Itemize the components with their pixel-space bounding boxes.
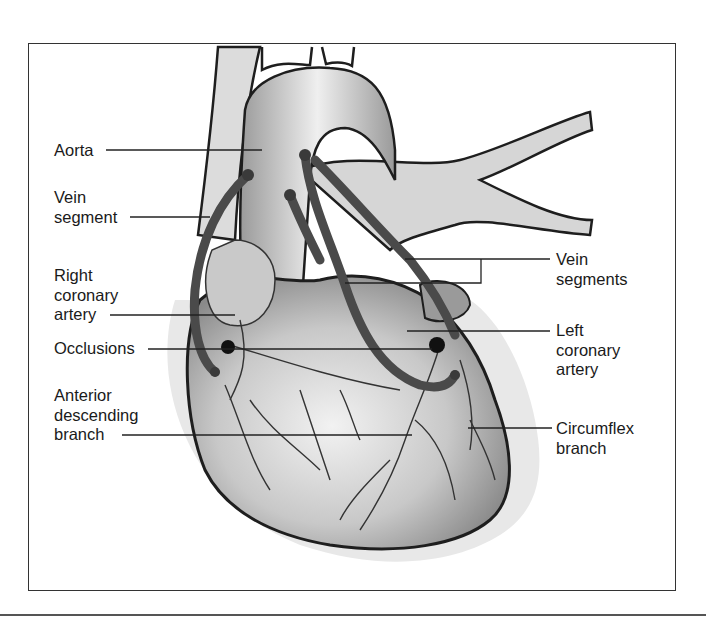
- label-left-coronary-artery: Left coronary artery: [556, 321, 620, 380]
- right-atrium: [206, 240, 275, 326]
- occlusion-right: [221, 340, 235, 354]
- label-vein-segment: Vein segment: [54, 188, 117, 227]
- label-vein-segments: Vein segments: [556, 250, 628, 289]
- label-circumflex-branch: Circumflex branch: [556, 419, 634, 458]
- pulmonary-artery: [300, 112, 592, 250]
- aortic-arch: [262, 47, 354, 70]
- occlusion-left: [429, 337, 445, 353]
- label-anterior-descending-branch: Anterior descending branch: [54, 386, 138, 445]
- label-aorta: Aorta: [54, 141, 93, 161]
- label-occlusions: Occlusions: [54, 339, 135, 359]
- label-right-coronary-artery: Right coronary artery: [54, 266, 118, 325]
